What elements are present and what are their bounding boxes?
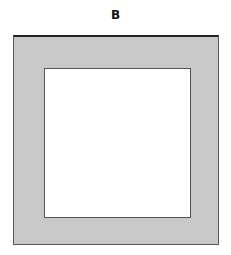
figure-label: B [0, 8, 231, 22]
inner-square [44, 68, 191, 218]
